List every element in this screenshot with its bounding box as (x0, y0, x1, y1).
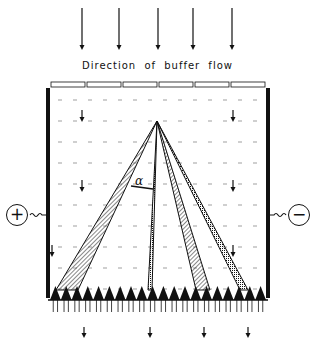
right-electrode-wall (266, 88, 270, 298)
buffer-flow-arrows-top (80, 8, 235, 50)
separation-bands (56, 121, 248, 290)
left-electrode-wall (46, 88, 50, 298)
cathode-minus-icon: − (288, 204, 310, 226)
outlet-flow-arrows (82, 327, 251, 338)
anode-plus-icon: + (6, 204, 28, 226)
buffer-inlet-segments (51, 82, 265, 87)
electrophoresis-chamber-diagram (0, 0, 315, 353)
angle-alpha-label: α (135, 174, 143, 188)
anode-wire (30, 214, 46, 217)
cathode-wire (270, 214, 286, 217)
buffer-flow-caption: Direction of buffer flow (0, 60, 315, 71)
outlet-teeth (48, 286, 268, 312)
